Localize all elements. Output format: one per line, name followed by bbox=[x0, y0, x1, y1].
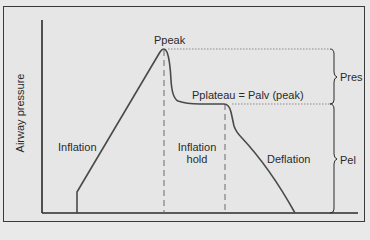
inflation-hold-line2: hold bbox=[177, 153, 217, 165]
pres-label: Pres bbox=[340, 71, 363, 83]
inflation-hold-line1: Inflation bbox=[177, 141, 217, 153]
pel-brace bbox=[330, 104, 337, 213]
ppeak-label: Ppeak bbox=[154, 34, 185, 46]
inflation-hold-label: Inflation hold bbox=[177, 141, 217, 165]
pres-brace bbox=[330, 49, 337, 104]
pel-label: Pel bbox=[340, 154, 356, 166]
deflation-label: Deflation bbox=[267, 153, 310, 165]
y-axis-label: Airway pressure bbox=[14, 74, 26, 153]
pressure-curve bbox=[77, 49, 295, 213]
inflation-label: Inflation bbox=[58, 141, 97, 153]
pplateau-label: Pplateau = Palv (peak) bbox=[192, 89, 304, 101]
